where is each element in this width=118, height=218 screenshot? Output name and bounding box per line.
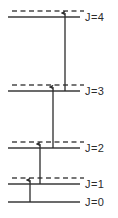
energy-level-diagram: J=4J=3J=2J=1J=0 [0,0,118,218]
transitions-group [30,13,65,202]
level-label-j0: J=0 [85,197,104,208]
level-label-j2: J=2 [85,143,104,154]
level-label-j4: J=4 [85,12,104,23]
levels-group [8,11,84,202]
level-label-j1: J=1 [85,179,104,190]
level-label-j3: J=3 [85,86,104,97]
